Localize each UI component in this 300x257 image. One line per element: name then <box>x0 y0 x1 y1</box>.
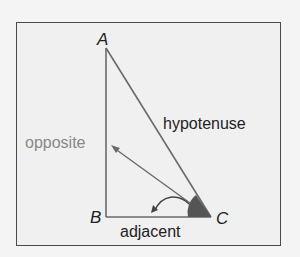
label-adjacent: adjacent <box>120 224 181 240</box>
label-opposite: opposite <box>25 135 86 151</box>
vertex-label-a: A <box>97 31 108 48</box>
vertex-label-b: B <box>90 209 101 226</box>
label-hypotenuse: hypotenuse <box>163 116 246 132</box>
vertex-label-c: C <box>216 210 228 227</box>
side-hypotenuse <box>106 48 211 217</box>
arrow-to-opposite <box>114 148 190 203</box>
triangle-diagram <box>0 0 300 257</box>
